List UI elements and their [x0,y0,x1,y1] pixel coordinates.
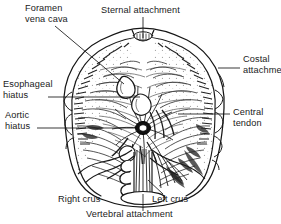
label-costal-attachment: Costal attachment [243,54,281,75]
label-aortic-hiatus: Aortic hiatus [5,110,30,131]
diaphragm-figure: Foramen vena cava Sternal attachment Cos… [0,0,281,224]
label-esophageal-hiatus: Esophageal hiatus [3,79,53,100]
label-foramen-vena-cava: Foramen vena cava [25,3,68,24]
label-vertebral-attachment: Vertebral attachment [86,209,173,220]
label-central-tendon: Central tendon [233,107,263,128]
label-left-crus: Left crus [152,194,188,205]
label-sternal-attachment: Sternal attachment [101,5,180,16]
aortic-hiatus-structure [136,122,151,135]
label-right-crus: Right crus [58,194,100,205]
